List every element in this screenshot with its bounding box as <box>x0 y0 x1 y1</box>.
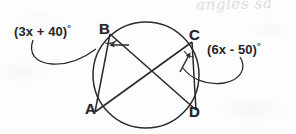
angle-expression-text-c: (6x - 50) <box>207 42 257 57</box>
angle-expression-label-b: (3x + 40)° <box>14 24 71 38</box>
angle-expression-text-b: (3x + 40) <box>14 24 67 39</box>
handwritten-annotation: angles sa <box>196 0 273 14</box>
angle-arc-b <box>105 40 117 43</box>
vertex-label-b: B <box>99 21 110 36</box>
chord-ac <box>95 42 192 112</box>
geometry-figure-screenshot: A B C D (3x + 40)° (6x - 50)° angles sa <box>0 0 296 134</box>
leader-line-angle-b <box>32 40 129 64</box>
degree-symbol-b: ° <box>67 23 71 33</box>
angle-expression-label-c: (6x - 50)° <box>207 42 261 56</box>
vertex-label-a: A <box>85 101 96 116</box>
vertex-label-d: D <box>189 104 200 119</box>
vertex-label-c: C <box>189 27 200 42</box>
leader-line-angle-c <box>180 55 243 84</box>
circle-diagram-svg <box>0 0 296 134</box>
degree-symbol-c: ° <box>257 41 261 51</box>
